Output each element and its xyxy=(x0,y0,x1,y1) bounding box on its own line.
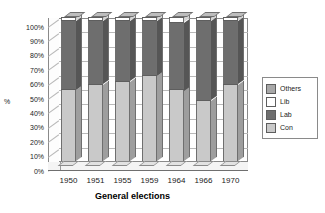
bar-segment-side-lab xyxy=(130,17,136,82)
bar-segment-con[interactable] xyxy=(142,76,157,161)
bar-column[interactable] xyxy=(61,17,76,161)
segment-divider xyxy=(61,17,76,18)
bar-segment-lab[interactable] xyxy=(169,23,184,91)
bar-column[interactable] xyxy=(223,17,238,161)
legend-item-lib[interactable]: Lib xyxy=(266,95,314,108)
legend-swatch-icon xyxy=(266,110,276,120)
legend-item-con[interactable]: Con xyxy=(266,121,314,134)
bar-top-face xyxy=(64,12,85,17)
y-axis-tick: 100% xyxy=(18,24,44,31)
bar-top-face xyxy=(226,12,247,17)
bar-segment-side-lab xyxy=(103,17,109,85)
bar-top-face xyxy=(91,12,112,17)
segment-divider xyxy=(88,84,103,85)
segment-divider xyxy=(196,17,211,18)
y-axis-tick: 20% xyxy=(18,139,44,146)
bar-segment-side-lab xyxy=(184,18,190,90)
chart-legend: OthersLibLabCon xyxy=(262,77,318,139)
bar-segment-con[interactable] xyxy=(88,85,103,161)
x-axis-title: General elections xyxy=(0,191,265,201)
bar-top-face xyxy=(145,12,166,17)
plot-area xyxy=(48,18,248,170)
segment-divider xyxy=(223,84,238,85)
bar-segment-con[interactable] xyxy=(115,82,130,161)
x-axis-tick: 1951 xyxy=(81,176,111,185)
bar-segment-side-con xyxy=(76,86,82,161)
legend-item-lab[interactable]: Lab xyxy=(266,108,314,121)
y-axis-tick: 90% xyxy=(18,38,44,45)
bar-segment-side-con xyxy=(130,77,136,161)
bar-top-face xyxy=(199,12,220,17)
bar-segment-lab[interactable] xyxy=(88,21,103,84)
segment-divider xyxy=(169,22,184,23)
bar-column[interactable] xyxy=(142,17,157,161)
bar-column[interactable] xyxy=(115,17,130,161)
bar-segment-lab[interactable] xyxy=(196,21,211,100)
segment-divider xyxy=(223,17,238,18)
legend-label: Others xyxy=(280,85,301,92)
segment-divider xyxy=(196,100,211,101)
bar-segment-side-con xyxy=(211,96,217,161)
bar-segment-con[interactable] xyxy=(169,90,184,161)
legend-item-others[interactable]: Others xyxy=(266,82,314,95)
bar-top-face xyxy=(172,12,193,17)
x-axis-tick: 1966 xyxy=(189,176,219,185)
segment-divider xyxy=(142,17,157,18)
bar-segment-side-con xyxy=(157,72,163,161)
bar-segment-lab[interactable] xyxy=(142,21,157,76)
x-axis-tick: 1964 xyxy=(162,176,192,185)
x-axis-tick: 1970 xyxy=(216,176,246,185)
y-axis-title: % xyxy=(4,98,10,105)
segment-divider xyxy=(115,81,130,82)
bar-segment-side-lab xyxy=(238,17,244,85)
bar-segment-side-con xyxy=(184,86,190,161)
y-axis-tick: 50% xyxy=(18,96,44,103)
x-axis-tick: 1955 xyxy=(108,176,138,185)
bar-segment-con[interactable] xyxy=(61,90,76,161)
segment-divider xyxy=(115,20,130,21)
y-axis-tick: 60% xyxy=(18,81,44,88)
legend-swatch-icon xyxy=(266,123,276,133)
bar-segment-side-lab xyxy=(211,17,217,101)
bar-segment-side-con xyxy=(103,80,109,161)
legend-label: Lib xyxy=(280,98,289,105)
y-axis-tick: 10% xyxy=(18,153,44,160)
bar-segment-con[interactable] xyxy=(196,101,211,161)
segment-divider xyxy=(169,17,184,18)
bar-column[interactable] xyxy=(196,17,211,161)
y-axis-tick-labels: 0%10%20%30%40%50%60%70%80%90%100% xyxy=(18,0,44,213)
segment-divider xyxy=(88,20,103,21)
segment-divider xyxy=(223,20,238,21)
x-axis-tick: 1959 xyxy=(135,176,165,185)
bar-segment-lab[interactable] xyxy=(223,21,238,84)
y-axis-tick: 0% xyxy=(18,168,44,175)
segment-divider xyxy=(196,20,211,21)
chart-container: % 0%10%20%30%40%50%60%70%80%90%100% 1950… xyxy=(0,0,325,213)
y-axis-tick: 30% xyxy=(18,124,44,131)
x-axis-tick: 1950 xyxy=(54,176,84,185)
segment-divider xyxy=(61,20,76,21)
segment-divider xyxy=(142,75,157,76)
bar-segment-lab[interactable] xyxy=(61,21,76,90)
bar-segment-side-con xyxy=(238,80,244,161)
bar-segment-lab[interactable] xyxy=(115,21,130,81)
x-axis-line xyxy=(48,170,248,171)
y-axis-tick: 70% xyxy=(18,67,44,74)
bar-column[interactable] xyxy=(88,17,103,161)
bar-column[interactable] xyxy=(169,17,184,161)
bar-segment-con[interactable] xyxy=(223,85,238,161)
segment-divider xyxy=(88,17,103,18)
y-axis-tick: 40% xyxy=(18,110,44,117)
legend-swatch-icon xyxy=(266,84,276,94)
segment-divider xyxy=(142,20,157,21)
legend-label: Con xyxy=(280,124,293,131)
bar-segment-side-lab xyxy=(157,17,163,76)
bar-segment-side-lab xyxy=(76,17,82,90)
legend-swatch-icon xyxy=(266,97,276,107)
legend-label: Lab xyxy=(280,111,292,118)
bar-top-face xyxy=(118,12,139,17)
y-axis-tick: 80% xyxy=(18,52,44,59)
segment-divider xyxy=(61,89,76,90)
segment-divider xyxy=(115,17,130,18)
segment-divider xyxy=(169,89,184,90)
